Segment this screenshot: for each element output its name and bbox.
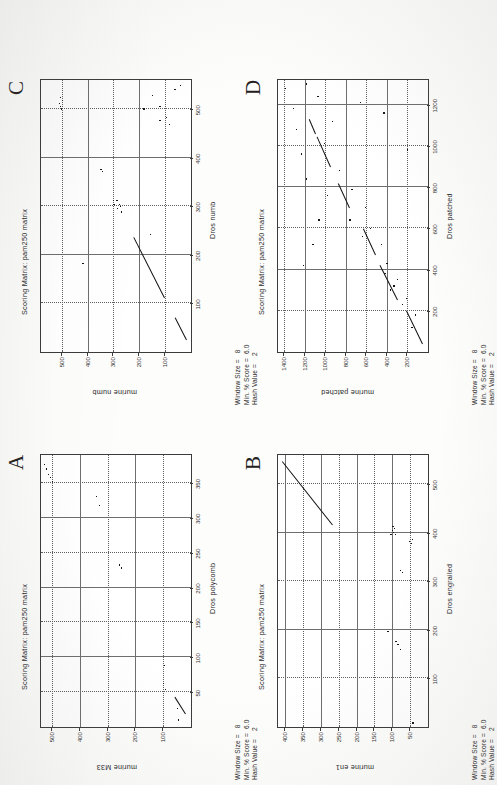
scatter-point xyxy=(383,112,384,113)
y-axis-tick xyxy=(304,353,305,356)
matrix-title-d: Scoring Matrix: pam250 matrix xyxy=(257,209,266,315)
x-axis-tick-label: 1000 xyxy=(431,140,438,154)
y-axis-tick-label: 1000 xyxy=(321,357,328,379)
scatter-point xyxy=(384,273,385,274)
scatter-point xyxy=(362,236,363,237)
x-axis-tick-label: 600 xyxy=(431,224,438,234)
scatter-point xyxy=(327,195,328,196)
y-axis-tick xyxy=(345,353,346,356)
gridline-vertical xyxy=(278,104,428,105)
scatter-point xyxy=(306,178,307,179)
x-axis-tick-label: 400 xyxy=(431,265,438,275)
scatter-point xyxy=(407,149,408,150)
gridline-horizontal xyxy=(305,80,306,352)
scatter-point xyxy=(312,244,313,245)
y-axis-tick xyxy=(365,353,366,356)
scatter-point xyxy=(349,219,350,220)
scatter-point xyxy=(332,121,333,122)
gridline-horizontal xyxy=(284,80,285,352)
scatter-point xyxy=(370,228,371,229)
scatter-point xyxy=(301,154,302,155)
gridline-horizontal xyxy=(346,80,347,352)
y-axis-title-d: murine patched xyxy=(321,388,374,397)
scatter-point xyxy=(293,108,294,109)
plot-area-d xyxy=(277,79,429,353)
y-axis-tick-label: 400 xyxy=(382,357,389,379)
gridline-horizontal xyxy=(366,80,367,352)
x-axis-tick xyxy=(427,187,430,188)
scatter-point xyxy=(365,207,366,208)
gridline-vertical xyxy=(278,269,428,270)
x-axis-tick xyxy=(427,311,430,312)
gridline-vertical xyxy=(278,227,428,228)
scatter-point xyxy=(303,265,304,266)
gridline-horizontal xyxy=(325,80,326,352)
y-axis-tick xyxy=(386,353,387,356)
gridline-vertical xyxy=(278,186,428,187)
scatter-point xyxy=(306,83,307,84)
scatter-point xyxy=(381,244,382,245)
figure-sheet: AWindow Size = 8 Min. % Score = 6.0 Hash… xyxy=(0,0,497,785)
scatter-point xyxy=(393,285,394,286)
y-axis-tick-label: 1200 xyxy=(300,357,307,379)
y-axis-tick xyxy=(324,353,325,356)
scanned-page: AWindow Size = 8 Min. % Score = 6.0 Hash… xyxy=(0,0,497,785)
alignment-diagonal xyxy=(406,311,423,344)
y-axis-tick xyxy=(283,353,284,356)
scatter-point xyxy=(397,279,398,280)
panel-d: DWindow Size = 8 Min. % Score = 6.0 Hash… xyxy=(0,0,497,785)
scatter-point xyxy=(318,219,319,220)
x-axis-tick xyxy=(427,270,430,271)
gridline-vertical xyxy=(278,145,428,146)
y-axis-tick-label: 600 xyxy=(362,357,369,379)
scatter-point xyxy=(386,263,387,264)
x-axis-tick-label: 200 xyxy=(431,307,438,317)
scatter-point xyxy=(339,170,340,171)
x-axis-tick xyxy=(427,228,430,229)
alignment-diagonal xyxy=(380,265,398,300)
scatter-point xyxy=(402,304,403,305)
params-block-d: Window Size = 8 Min. % Score = 6.0 Hash … xyxy=(471,344,497,405)
y-axis-tick-label: 200 xyxy=(403,357,410,379)
scatter-point xyxy=(415,314,416,315)
alignment-diagonal xyxy=(362,228,375,255)
x-axis-tick-label: 800 xyxy=(431,183,438,193)
scatter-point xyxy=(406,298,407,299)
scatter-point xyxy=(351,189,352,190)
y-axis-tick xyxy=(406,353,407,356)
x-axis-tick xyxy=(427,146,430,147)
gridline-horizontal xyxy=(387,80,388,352)
scatter-point xyxy=(390,290,391,291)
alignment-diagonal xyxy=(309,119,316,134)
y-axis-tick-label: 1400 xyxy=(280,357,287,379)
x-axis-tick xyxy=(427,105,430,106)
alignment-diagonal xyxy=(317,136,331,166)
scatter-point xyxy=(296,129,297,130)
scatter-point xyxy=(411,327,412,328)
scatter-point xyxy=(360,102,361,103)
panel-letter-d: D xyxy=(241,80,266,95)
y-axis-tick-label: 800 xyxy=(341,357,348,379)
scatter-point xyxy=(324,143,325,144)
x-axis-title-d: Dros patched xyxy=(445,193,454,239)
scatter-point xyxy=(317,96,318,97)
x-axis-tick-label: 1200 xyxy=(431,99,438,113)
scatter-point xyxy=(285,88,286,89)
